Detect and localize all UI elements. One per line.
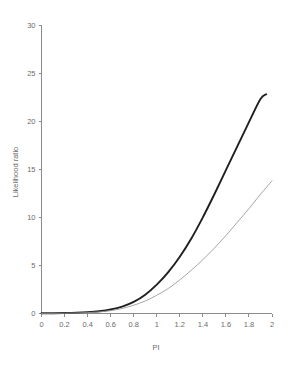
x-tick-label: 0 [39,320,43,329]
y-tick-label: 5 [31,261,35,270]
x-tick-label: 1.2 [175,320,185,329]
x-tick-label: 0.8 [128,320,138,329]
y-tick-label: 0 [31,309,35,318]
series-lower-curve [42,181,273,314]
y-tick-label: 15 [27,165,35,174]
x-tick-group: 00.20.40.60.811.21.41.61.82 [39,314,274,329]
y-tick-label: 10 [27,213,35,222]
likelihood-ratio-line-chart: 051015202530 00.20.40.60.811.21.41.61.82… [0,0,294,371]
x-tick-label: 1.8 [244,320,254,329]
y-tick-label: 30 [27,21,35,30]
x-tick-label: 1.4 [198,320,208,329]
x-tick-label: 1.6 [221,320,231,329]
x-tick-label: 0.6 [105,320,115,329]
y-tick-group: 051015202530 [27,21,41,319]
x-tick-label: 1 [155,320,159,329]
chart-figure: 051015202530 00.20.40.60.811.21.41.61.82… [0,0,294,371]
x-tick-label: 0.2 [59,320,69,329]
x-tick-label: 2 [270,320,274,329]
y-tick-label: 25 [27,69,35,78]
y-tick-label: 20 [27,117,35,126]
series-upper-curve [42,94,267,313]
x-axis-title: PI [152,343,159,352]
x-tick-label: 0.4 [82,320,92,329]
y-axis-title: Likelihood ratio [11,147,20,197]
